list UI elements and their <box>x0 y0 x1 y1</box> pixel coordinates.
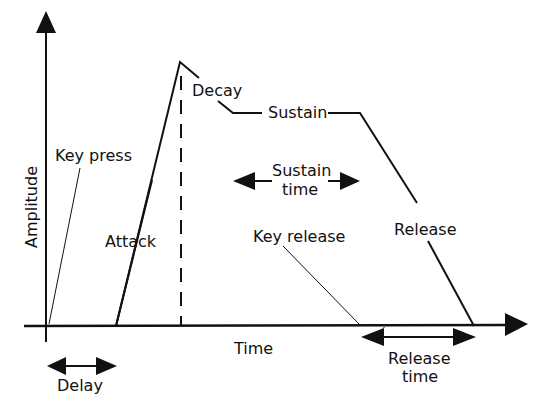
x-axis-arrow-icon <box>505 313 528 336</box>
key-press-label: Key press <box>55 146 132 165</box>
arrow-left-icon <box>361 328 384 346</box>
envelope-sustain-release <box>328 113 417 203</box>
key-release-leader <box>283 246 360 325</box>
delay-label: Delay <box>57 376 103 395</box>
key-release-label: Key release <box>253 227 345 246</box>
y-axis-label: Amplitude <box>22 166 41 248</box>
sustain-label: Sustain <box>268 103 327 122</box>
envelope-attack-lower <box>116 180 152 326</box>
envelope-curve <box>116 62 199 326</box>
attack-label: Attack <box>105 232 157 251</box>
arrow-left-icon <box>233 172 255 190</box>
release-time-label-line2: time <box>402 367 438 386</box>
release-time-arrows <box>361 327 476 346</box>
arrow-right-icon <box>340 172 360 190</box>
decay-label: Decay <box>192 81 242 100</box>
envelope-decay-sustain <box>218 101 262 113</box>
arrow-left-icon <box>47 357 66 375</box>
adsr-diagram: Amplitude Time Key press Attack Decay Su… <box>0 0 544 406</box>
sustain-time-label-line2: time <box>282 180 318 199</box>
x-axis <box>24 313 528 336</box>
x-axis-label: Time <box>233 339 273 358</box>
sustain-time-label-line1: Sustain <box>272 161 331 180</box>
delay-arrows <box>47 357 117 375</box>
release-time-label-line1: Release <box>388 349 451 368</box>
arrow-right-icon <box>453 328 476 346</box>
envelope-release-lower <box>428 241 474 326</box>
key-press-leader <box>49 168 80 324</box>
release-label: Release <box>394 220 457 239</box>
y-axis-arrow-icon <box>36 11 56 33</box>
arrow-right-icon <box>96 357 117 375</box>
